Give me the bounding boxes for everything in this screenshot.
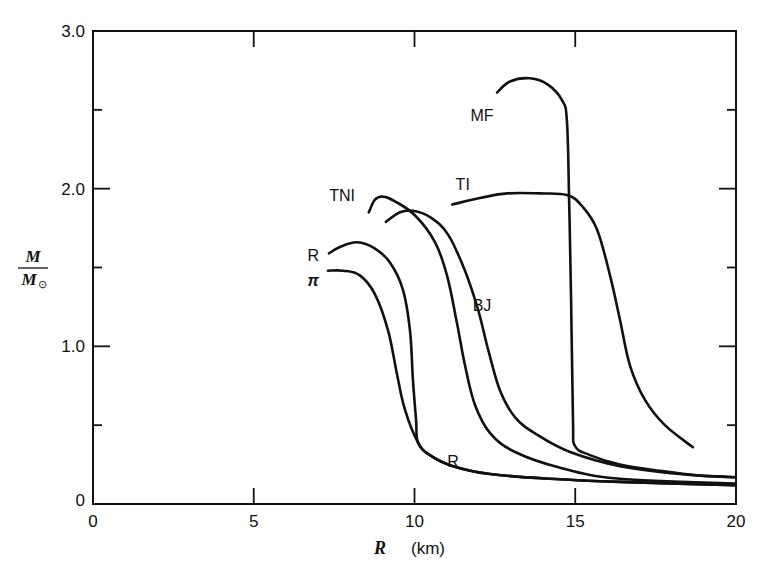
y-axis-numerator: M	[24, 247, 41, 266]
y-axis-title: M M ⊙	[18, 247, 48, 290]
tick-labels: 0510152001.02.03.0	[61, 22, 745, 531]
curve-label-mf: MF	[470, 107, 493, 124]
sun-symbol-icon: ⊙	[38, 278, 47, 290]
curve-label-r: R	[307, 247, 319, 264]
y-tick-label: 2.0	[61, 180, 85, 199]
curve-pi	[328, 270, 735, 485]
y-axis-denominator: M	[20, 270, 37, 289]
x-tick-label: 15	[566, 512, 585, 531]
curve-labels: MFTITNIBJRRπ	[307, 107, 493, 471]
x-tick-label: 0	[88, 512, 97, 531]
x-axis-variable: R	[373, 538, 386, 558]
curves	[328, 78, 735, 485]
x-tick-label: 5	[249, 512, 258, 531]
y-tick-label: 0	[76, 491, 85, 510]
curve-label-tni: TNI	[329, 187, 355, 204]
curve-label-r-2: R	[447, 453, 459, 470]
curve-label-ti: TI	[456, 176, 470, 193]
x-tick-label: 10	[405, 512, 424, 531]
x-axis-title: R (km)	[373, 538, 445, 558]
x-axis-unit: (km)	[411, 539, 445, 558]
x-tick-label: 20	[727, 512, 746, 531]
curve-r	[329, 242, 735, 485]
curve-mf	[497, 78, 735, 477]
curve-label-pi: π	[308, 272, 320, 289]
curve-label-bj: BJ	[473, 297, 492, 314]
mass-radius-chart: 0510152001.02.03.0 MFTITNIBJRRπ R (km) M…	[0, 0, 765, 570]
y-tick-label: 3.0	[61, 22, 85, 41]
curve-tni	[369, 197, 735, 484]
y-tick-label: 1.0	[61, 337, 85, 356]
